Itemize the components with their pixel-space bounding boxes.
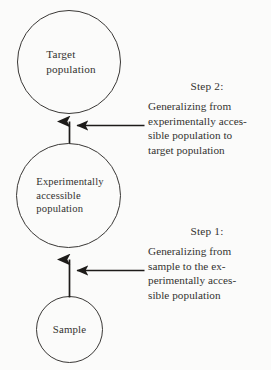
node-experimentally-accessible-population: Experimentally accessible population — [16, 143, 121, 248]
node-target-population: Target population — [17, 10, 121, 114]
generalization-diagram: Target population Experimentally accessi… — [0, 0, 271, 370]
node-experimentally-accessible-population-label: Experimentally accessible population — [33, 175, 103, 217]
annotation-step-2: Step 2: Generalizing from experimentally… — [148, 80, 266, 157]
step-1-heading: Step 1: — [148, 225, 266, 237]
node-target-population-label: Target population — [42, 47, 95, 77]
step-2-heading: Step 2: — [148, 80, 266, 92]
node-sample: Sample — [36, 296, 103, 363]
node-sample-label: Sample — [53, 322, 86, 336]
step-1-body: Generalizing from sample to the ex- peri… — [148, 244, 266, 302]
annotation-step-1: Step 1: Generalizing from sample to the … — [148, 225, 266, 302]
step-2-body: Generalizing from experimentally acces- … — [148, 99, 266, 157]
